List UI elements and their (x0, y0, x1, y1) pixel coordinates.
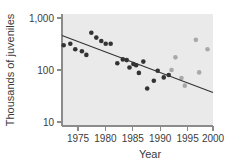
data-point (61, 43, 66, 48)
data-point (99, 39, 104, 44)
data-point (197, 70, 202, 75)
data-point (73, 47, 78, 52)
x-tick-label-1975: 1975 (67, 133, 90, 144)
data-point (194, 38, 199, 43)
data-point (108, 41, 113, 46)
data-point (205, 47, 210, 52)
y-axis-ticks (57, 18, 62, 122)
plot-area-background (62, 14, 213, 126)
data-point (173, 55, 178, 60)
data-point (89, 30, 94, 35)
data-point (137, 71, 142, 76)
data-point (161, 75, 166, 80)
data-point (80, 49, 85, 54)
data-point (103, 41, 108, 46)
data-point (141, 59, 146, 64)
x-tick-label-1985: 1985 (122, 133, 145, 144)
data-point (84, 53, 89, 58)
data-point (68, 41, 73, 46)
x-tick-label-2000: 2000 (202, 133, 225, 144)
y-tick-label-1000: 1,000 (29, 13, 54, 24)
data-point (94, 35, 99, 40)
y-axis-title: Thousands of juveniles (4, 13, 16, 126)
x-tick-label-1990: 1990 (149, 133, 172, 144)
chart-figure: 1,000 100 10 1975 1980 1985 1990 1995 20… (0, 0, 227, 162)
x-tick-label-1995: 1995 (176, 133, 199, 144)
juveniles-vs-year-scatter-chart: 1,000 100 10 1975 1980 1985 1990 1995 20… (0, 0, 227, 162)
x-axis-ticks (78, 126, 213, 131)
x-tick-label-1980: 1980 (94, 133, 117, 144)
data-point (115, 61, 120, 66)
data-point (169, 68, 174, 73)
data-point (127, 65, 132, 70)
y-tick-label-100: 100 (37, 65, 54, 76)
data-point (182, 83, 187, 88)
y-tick-label-10: 10 (43, 117, 55, 128)
data-point (152, 79, 157, 84)
x-axis-title: Year (139, 148, 162, 160)
data-point (145, 86, 150, 91)
